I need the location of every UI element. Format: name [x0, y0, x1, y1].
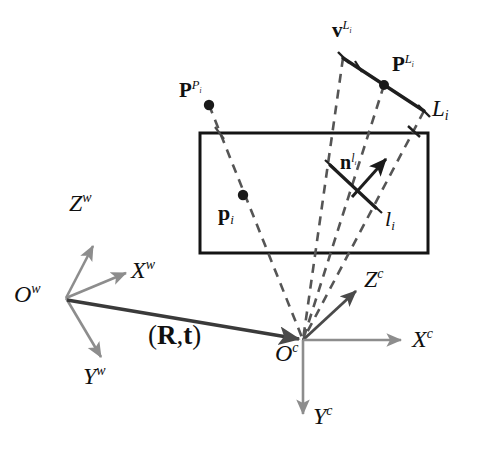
point-3d-base: P	[179, 78, 192, 102]
point-2d-base: p	[218, 200, 230, 225]
world-axis-x-sup: w	[146, 257, 155, 272]
world-axis-y-base: Y	[83, 363, 96, 389]
camera-axis-y-label: Yc	[313, 404, 333, 428]
image-plane-rectangle	[200, 133, 428, 253]
world-axis-x	[66, 273, 126, 298]
line-direction-sup: L	[343, 18, 350, 32]
camera-axis-z-sup: c	[377, 266, 383, 281]
world-axis-y-label: Yw	[83, 364, 106, 388]
point-2d-label: pi	[218, 202, 234, 224]
line-3d-segment-group	[338, 52, 430, 117]
projection-geometry-figure: vLi PLi Li PPi pi nli li Zw Xw Yw Ow (R,…	[0, 0, 483, 455]
camera-origin-label: Oc	[275, 341, 299, 365]
world-origin-sup: w	[31, 281, 40, 296]
line-3d-end-tick	[418, 105, 430, 117]
projection-ray-line-start	[303, 58, 343, 340]
extrinsic-close-paren: )	[192, 320, 201, 350]
line-2d-label: li	[385, 208, 395, 230]
camera-axis-z-base: Z	[364, 266, 377, 292]
camera-axis-x-base: X	[412, 326, 427, 352]
camera-axis-x-sup: c	[427, 326, 433, 341]
world-axis-y-sup: w	[96, 363, 105, 378]
line-2d-sub: i	[391, 218, 395, 233]
line-2d-start-tick	[325, 160, 336, 170]
line-2d-end-tick	[371, 203, 382, 213]
extrinsic-rotation: R	[157, 320, 177, 350]
world-axis-z	[66, 246, 93, 298]
line-point-base: P	[392, 52, 405, 76]
normal-vector-arrow	[352, 159, 386, 197]
point-3d-label: PPi	[179, 80, 202, 102]
world-origin-base: O	[14, 281, 31, 307]
point-3d-subsup: i	[200, 86, 202, 95]
line-3d-label: Li	[432, 97, 449, 120]
world-axis-z-label: Zw	[69, 191, 92, 215]
line-direction-base: v	[332, 18, 343, 42]
line-normal-subsup: i	[354, 159, 356, 167]
point-3d-dot	[204, 100, 214, 110]
extrinsic-transform-label: (R,t)	[148, 322, 201, 349]
extrinsic-open-paren: (	[148, 320, 157, 350]
point-2d-dot	[238, 190, 248, 200]
line-point-subsup: i	[412, 60, 414, 69]
line-normal-label: nli	[340, 152, 356, 174]
line-point-label: PLi	[392, 54, 414, 76]
point-3d-sup: P	[192, 78, 200, 92]
camera-origin-sup: c	[292, 340, 298, 355]
line-3d-base: L	[432, 96, 445, 121]
line-3d-sub: i	[445, 108, 449, 123]
projection-ray-line-end	[303, 111, 424, 340]
camera-axis-y-sup: c	[326, 403, 332, 418]
camera-origin-base: O	[275, 340, 292, 366]
line-point-sup: L	[405, 52, 412, 66]
camera-axis-y-base: Y	[313, 403, 326, 429]
line-direction-subsup: i	[350, 26, 352, 35]
line-normal-base: n	[340, 151, 351, 173]
world-axis-x-base: X	[131, 257, 146, 283]
world-axis-z-base: Z	[69, 190, 82, 216]
world-axis-y	[66, 298, 101, 357]
line-point-dot	[379, 80, 389, 90]
world-origin-label: Ow	[14, 282, 41, 306]
world-axis-z-sup: w	[82, 190, 91, 205]
point-2d-sub: i	[230, 212, 234, 227]
line-direction-label: vLi	[332, 20, 352, 42]
camera-axis-x-label: Xc	[412, 327, 433, 351]
extrinsic-translation: t	[183, 320, 192, 350]
world-axis-x-label: Xw	[131, 258, 155, 282]
camera-axis-z-label: Zc	[364, 267, 384, 291]
